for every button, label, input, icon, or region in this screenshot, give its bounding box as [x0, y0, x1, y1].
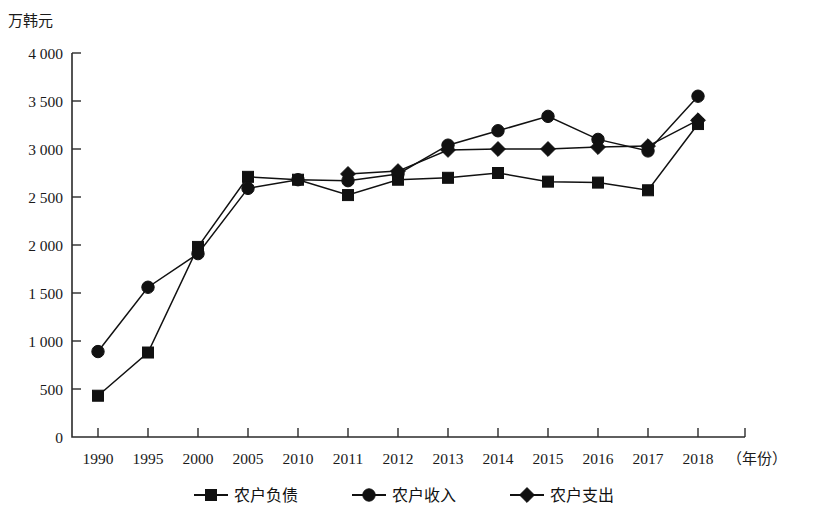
- chart-legend: 农户负债农户收入农户支出: [194, 487, 614, 504]
- legend-item-1: 农户负债: [194, 487, 298, 504]
- data-point-marker: [92, 345, 104, 357]
- x-tick-label: 1995: [133, 450, 164, 467]
- x-tick-label: 2005: [233, 450, 264, 467]
- legend-marker-square: [206, 490, 217, 501]
- y-tick-label: 3 000: [28, 141, 63, 158]
- y-tick-label: 1 500: [28, 285, 63, 302]
- x-tick-label: 2000: [183, 450, 214, 467]
- data-point-marker: [593, 177, 604, 188]
- axes: [72, 53, 745, 437]
- data-point-marker: [292, 174, 304, 186]
- x-tick-label: 2018: [683, 450, 714, 467]
- legend-label: 农户负债: [234, 487, 298, 504]
- data-point-marker: [542, 110, 554, 122]
- data-point-marker: [543, 176, 554, 187]
- x-tick-label: 2016: [583, 450, 614, 467]
- legend-item-2: 农户收入: [352, 487, 456, 504]
- data-point-marker: [493, 168, 504, 179]
- series-line: [98, 96, 698, 351]
- data-point-marker: [491, 142, 506, 157]
- data-point-marker: [243, 171, 254, 182]
- data-point-marker: [93, 390, 104, 401]
- axis-lines: [72, 53, 745, 437]
- y-axis-title: 万韩元: [8, 12, 53, 29]
- data-point-marker: [343, 190, 354, 201]
- x-tick-label: 1990: [83, 450, 114, 467]
- x-tick-label: 2015: [533, 450, 564, 467]
- legend-label: 农户收入: [392, 487, 456, 504]
- series-2: [92, 90, 704, 358]
- chart-container: 万韩元 05001 0001 5002 0002 5003 0003 5004 …: [0, 0, 820, 514]
- x-tick-label: 2011: [333, 450, 363, 467]
- data-point-marker: [192, 247, 204, 259]
- x-axis-title: （年份）: [727, 450, 787, 467]
- legend-marker-circle: [363, 489, 375, 501]
- y-tick-label: 2 000: [28, 237, 63, 254]
- data-point-marker: [242, 182, 254, 194]
- legend-item-3: 农户支出: [510, 487, 614, 504]
- x-tick-label: 2012: [383, 450, 414, 467]
- data-point-marker: [142, 281, 154, 293]
- x-axis-title-label: （年份）: [727, 450, 787, 467]
- y-tick-label: 500: [40, 381, 64, 398]
- x-tick-label: 2014: [483, 450, 514, 467]
- x-axis-ticks: 1990199520002005201020112012201320142015…: [83, 428, 746, 467]
- data-point-marker: [643, 185, 654, 196]
- y-axis-ticks: 05001 0001 5002 0002 5003 0003 5004 000: [28, 45, 81, 446]
- x-tick-label: 2010: [283, 450, 314, 467]
- data-point-marker: [492, 125, 504, 137]
- line-chart: 万韩元 05001 0001 5002 0002 5003 0003 5004 …: [0, 0, 820, 514]
- series-layer: [92, 90, 706, 401]
- y-tick-label: 3 500: [28, 93, 63, 110]
- legend-label: 农户支出: [550, 487, 614, 504]
- y-tick-label: 4 000: [28, 45, 63, 62]
- x-tick-label: 2013: [433, 450, 464, 467]
- y-axis-title-label: 万韩元: [8, 12, 53, 29]
- data-point-marker: [443, 172, 454, 183]
- data-point-marker: [692, 90, 704, 102]
- y-tick-label: 1 000: [28, 333, 63, 350]
- series-1: [93, 119, 704, 402]
- y-tick-label: 2 500: [28, 189, 63, 206]
- legend-marker-diamond: [520, 488, 535, 503]
- data-point-marker: [541, 142, 556, 157]
- data-point-marker: [143, 347, 154, 358]
- x-tick-label: 2017: [633, 450, 664, 467]
- y-tick-label: 0: [55, 429, 63, 446]
